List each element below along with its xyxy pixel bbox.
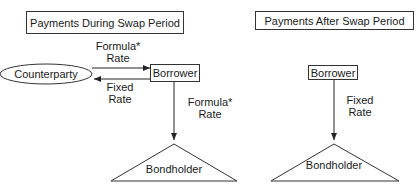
fixed-rate-label-left: Fixed Rate (100, 81, 140, 105)
right-bondholder-label: Bondholder (294, 159, 374, 171)
fixed-rate-label-right: Fixed Rate (340, 94, 380, 118)
left-panel-title: Payments During Swap Period (26, 11, 184, 34)
counterparty-label: Counterparty (0, 68, 92, 80)
formula-rate-label-top: Formula* Rate (90, 40, 146, 64)
right-panel-title: Payments After Swap Period (255, 11, 414, 30)
formula-rate-label-down: Formula* Rate (180, 96, 240, 120)
right-borrower-box: Borrower (308, 65, 358, 80)
left-bondholder-label: Bondholder (134, 163, 214, 175)
left-borrower-box: Borrower (150, 64, 200, 82)
